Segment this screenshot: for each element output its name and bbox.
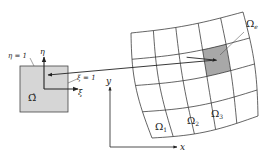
mesh-col-line — [131, 33, 152, 138]
element-label-2: Ω2 — [187, 115, 199, 127]
mesh-row-line — [143, 90, 258, 112]
reference-element: Ω̂ η ξ η = 1 ξ = 1 — [8, 47, 96, 112]
xi-edge-label: ξ = 1 — [77, 74, 96, 82]
mapping-arrow — [48, 60, 214, 75]
xi-axis-label: ξ — [78, 88, 83, 97]
omega-e-leader — [220, 32, 244, 55]
element-label-3: Ω3 — [211, 108, 223, 120]
xi-edge-leader — [68, 79, 77, 83]
y-axis-label: y — [105, 76, 112, 86]
eta-edge-label: η = 1 — [8, 52, 27, 60]
eta-edge-leader — [30, 58, 34, 66]
element-label-e: Ωe — [246, 18, 258, 30]
mesh-row-line — [131, 12, 243, 33]
eta-axis-label: η — [40, 47, 45, 56]
reference-domain-label: Ω̂ — [28, 92, 36, 103]
global-axes: y x — [105, 76, 185, 152]
mapping-diagram: Ω̂ η ξ η = 1 ξ = 1 y x Ω1Ω2Ω3Ωe — [0, 0, 270, 160]
element-label-1: Ω1 — [155, 121, 167, 133]
mesh-row-line — [132, 38, 250, 59]
x-axis-label: x — [180, 142, 185, 152]
mesh-row-line — [136, 64, 255, 86]
